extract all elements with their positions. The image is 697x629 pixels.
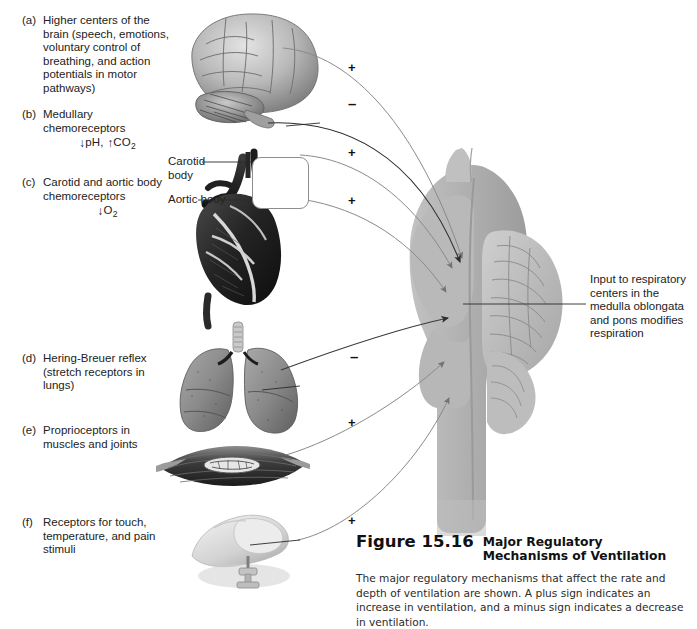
label-tag-b: (b) [22, 108, 43, 150]
label-tag-c: (c) [22, 176, 43, 218]
figure-number: Figure 15.16 [356, 533, 474, 550]
sign-carotid-aortic-plus: + [348, 196, 356, 206]
sign-hering-breuer-minus: – [350, 352, 358, 362]
figure-title: Major Regulatory Mechanisms of Ventilati… [483, 533, 691, 563]
sign-higher-centers-minus: – [348, 99, 356, 109]
label-tag-a: (a) [22, 14, 43, 96]
sign-higher-centers-plus: + [348, 63, 356, 73]
label-medullary-chemoreceptors: (b) Medullary chemoreceptors ↓pH, ↑CO2 [22, 108, 170, 150]
sign-proprioceptors-plus: + [348, 418, 356, 428]
figure-caption-block: Figure 15.16 Major Regulatory Mechanisms… [356, 533, 691, 629]
label-text-f: Receptors for touch, temperature, and pa… [43, 516, 174, 557]
sign-receptors-plus: + [348, 516, 356, 526]
label-tag-d: (d) [22, 352, 43, 393]
label-proprioceptors: (e) Proprioceptors in muscles and joints [22, 424, 170, 451]
figure-heading: Figure 15.16 Major Regulatory Mechanisms… [356, 533, 691, 563]
figure-caption-text: The major regulatory mechanisms that aff… [356, 571, 691, 629]
carotid-aortic-callout-box [252, 157, 309, 209]
hand-illustration [192, 515, 290, 588]
label-chem-b: ↓pH, ↑CO2 [43, 136, 170, 150]
label-hering-breuer-reflex: (d) Hering-Breuer reflex (stretch recept… [22, 352, 174, 393]
label-text-b: Medullary chemoreceptors [43, 108, 125, 134]
brainstem-illustration [410, 148, 563, 536]
muscle-illustration [156, 446, 310, 486]
brain-illustration [192, 14, 318, 128]
label-touch-receptors: (f) Receptors for touch, temperature, an… [22, 516, 174, 557]
label-text-e: Proprioceptors in muscles and joints [43, 424, 170, 451]
arrow-receptors-plus [298, 398, 449, 540]
lungs-illustration [180, 322, 298, 433]
label-higher-centers: (a) Higher centers of the brain (speech,… [22, 14, 170, 96]
callout-carotid-body: Carotid body [168, 155, 228, 182]
label-tag-e: (e) [22, 424, 43, 451]
sign-medullary-plus: + [348, 148, 356, 158]
label-text-c: Carotid and aortic body chemoreceptors [43, 176, 162, 202]
label-tag-f: (f) [22, 516, 43, 557]
label-text-a: Higher centers of the brain (speech, emo… [43, 14, 170, 96]
label-chem-c: ↓O2 [43, 204, 170, 218]
callout-brainstem-input: Input to respiratory centers in the medu… [590, 273, 694, 341]
label-carotid-aortic-chemoreceptors: (c) Carotid and aortic body chemorecepto… [22, 176, 170, 218]
callout-aortic-body: Aortic body [168, 193, 228, 207]
label-text-d: Hering-Breuer reflex (stretch receptors … [43, 352, 174, 393]
